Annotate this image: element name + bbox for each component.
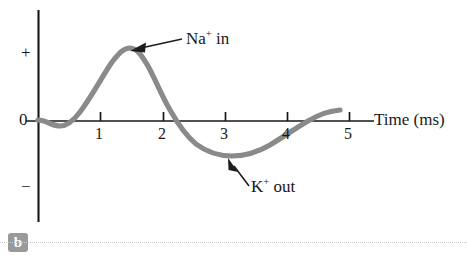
footer-divider <box>0 242 467 244</box>
x-tick-label-2: 2 <box>158 126 166 142</box>
k-out-arrow <box>228 158 249 186</box>
na-symbol: Na <box>186 29 206 48</box>
y-axis-zero-label: 0 <box>19 111 28 128</box>
y-axis-positive-label: + <box>21 44 31 61</box>
x-tick-label-5: 5 <box>344 126 352 142</box>
x-tick-label-1: 1 <box>95 126 103 142</box>
x-tick-label-3: 3 <box>220 126 228 142</box>
ionic-current-figure: + 0 − 1 2 3 4 5 Time (ms) Na+ in K+ out … <box>0 0 467 255</box>
na-direction: in <box>212 29 229 48</box>
na-in-arrow <box>130 39 182 53</box>
x-axis-title: Time (ms) <box>374 111 445 128</box>
ionic-current-curve <box>38 48 340 156</box>
annotation-label-na-in: Na+ in <box>186 30 229 47</box>
y-axis-negative-label: − <box>21 178 31 195</box>
k-symbol: K <box>251 177 263 196</box>
k-direction: out <box>269 177 295 196</box>
x-tick-label-4: 4 <box>282 126 290 142</box>
annotation-label-k-out: K+ out <box>251 178 295 195</box>
